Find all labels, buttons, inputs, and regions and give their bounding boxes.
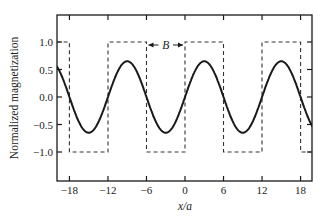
y-tick-label: −1.0 [33, 146, 53, 158]
arrowhead-right-icon [178, 43, 183, 48]
x-tick-label: 12 [257, 184, 268, 196]
x-tick-label: 0 [182, 184, 188, 196]
y-tick-label: 1.0 [39, 36, 53, 48]
y-tick-label: −0.5 [33, 119, 53, 131]
plot-area: −18−12−60612181.00.50.0−0.5−1.0B [33, 15, 313, 196]
x-tick-label: 6 [221, 184, 227, 196]
x-tick-label: −6 [141, 184, 153, 196]
magnetization-chart: −18−12−60612181.00.50.0−0.5−1.0B x/a Nor… [0, 0, 327, 217]
x-tick-label: −12 [99, 184, 116, 196]
magnetization-curve [57, 61, 314, 133]
x-axis-label: x/a [177, 200, 192, 212]
arrowhead-left-icon [148, 43, 153, 48]
y-tick-label: 0.0 [39, 91, 53, 103]
y-axis-label: Normalized magnetization [8, 37, 21, 160]
y-tick-label: 0.5 [39, 64, 53, 76]
x-tick-label: −18 [61, 184, 79, 196]
b-annotation-label: B [162, 39, 169, 51]
x-tick-label: 18 [295, 184, 307, 196]
